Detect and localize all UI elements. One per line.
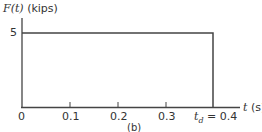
x-tick-0.1: 0.1 xyxy=(62,111,80,123)
y-label-unit: (kips) xyxy=(24,2,58,15)
x-ticks xyxy=(70,102,166,107)
figure-caption: (b) xyxy=(127,122,141,132)
x-tick-0.2: 0.2 xyxy=(110,111,128,123)
x-tick-0: 0 xyxy=(18,111,25,123)
y-axis-label: F(t) (kips) xyxy=(3,3,58,15)
x-tick-td: td = 0.4 xyxy=(194,111,237,127)
x-tick-0.3: 0.3 xyxy=(158,111,176,123)
chart-figure: F(t) (kips) 5 0 0.1 0.2 0.3 td = 0.4 t (… xyxy=(0,0,262,132)
force-pulse-line xyxy=(22,33,213,108)
y-tick-5: 5 xyxy=(10,27,17,39)
td-value: = 0.4 xyxy=(204,110,238,123)
x-label-unit: (s) xyxy=(247,101,262,114)
y-label-symbol: F(t) xyxy=(3,2,24,15)
x-axis-label: t (s) xyxy=(243,102,262,114)
